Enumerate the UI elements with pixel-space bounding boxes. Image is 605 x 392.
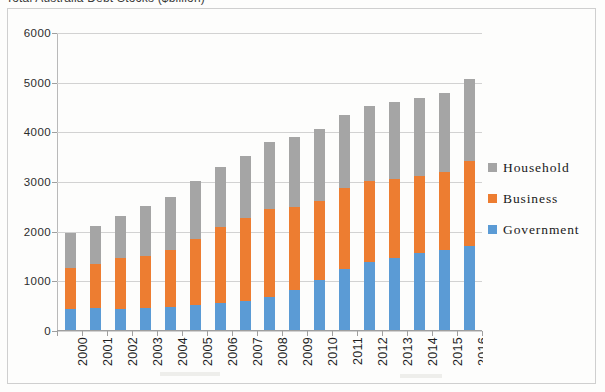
stacked-bar[interactable] (389, 102, 400, 330)
x-axis-tick (157, 331, 158, 336)
stacked-bar[interactable] (414, 98, 425, 330)
bar-slot (58, 33, 83, 330)
x-axis-tick (432, 331, 433, 336)
bar-segment-household (439, 93, 450, 172)
legend-item-business[interactable]: Business (488, 183, 596, 214)
bar-segment-household (215, 167, 226, 227)
bar-segment-business (190, 239, 201, 305)
bar-segment-business (165, 250, 176, 307)
x-axis-tick-label: 2009 (301, 337, 315, 348)
bar-slot (307, 33, 332, 330)
bar-segment-government (364, 262, 375, 330)
bar-segment-household (240, 156, 251, 218)
x-axis-tick (207, 331, 208, 336)
bar-segment-business (464, 161, 475, 245)
x-axis-tick-label: 2004 (176, 337, 190, 348)
legend-swatch-icon (488, 194, 497, 203)
bar-segment-government (314, 280, 325, 330)
bar-segment-household (339, 115, 350, 189)
x-axis-tick (57, 331, 58, 336)
stacked-bar[interactable] (464, 79, 475, 330)
x-axis-tick (332, 331, 333, 336)
bar-segment-household (90, 226, 101, 264)
stacked-bar[interactable] (439, 93, 450, 330)
bar-series-container (58, 33, 482, 330)
y-axis-tick-label: 5000 (24, 77, 51, 89)
bar-segment-government (339, 269, 350, 330)
stacked-bar[interactable] (364, 106, 375, 330)
stacked-bar[interactable] (65, 233, 76, 330)
x-axis-tick-label: 2010 (326, 337, 340, 348)
bar-segment-business (264, 209, 275, 297)
y-axis-tick (52, 83, 57, 84)
chart-page: Total Australia Debt Stocks ($billion) 0… (0, 0, 605, 392)
y-axis-tick-label: 1000 (24, 275, 51, 287)
bar-slot (258, 33, 283, 330)
x-axis-tick (282, 331, 283, 336)
stacked-bar[interactable] (90, 226, 101, 330)
bar-segment-business (289, 207, 300, 290)
bar-segment-household (115, 216, 126, 258)
x-axis-tick-label: 2014 (426, 337, 440, 348)
plot-area (57, 33, 482, 331)
x-axis-tick (457, 331, 458, 336)
x-axis-tick (82, 331, 83, 336)
x-axis-tick (357, 331, 358, 336)
x-axis-tick-label: 2002 (126, 337, 140, 348)
x-axis-tick-label: 2005 (201, 337, 215, 348)
stacked-bar[interactable] (115, 216, 126, 330)
legend-item-household[interactable]: Household (488, 152, 596, 183)
y-axis-tick-label: 0 (44, 325, 51, 337)
y-axis-tick-label: 4000 (24, 126, 51, 138)
x-axis-tick-label: 2016 (476, 337, 484, 348)
stacked-bar[interactable] (339, 115, 350, 330)
bar-segment-household (165, 197, 176, 249)
bar-slot (233, 33, 258, 330)
bar-slot (183, 33, 208, 330)
bar-segment-business (314, 201, 325, 279)
stacked-bar[interactable] (190, 181, 201, 330)
bar-segment-household (264, 142, 275, 209)
legend-item-label: Household (503, 160, 570, 176)
bar-slot (382, 33, 407, 330)
y-axis-tick (52, 132, 57, 133)
bar-segment-government (264, 297, 275, 330)
bar-slot (282, 33, 307, 330)
stacked-bar[interactable] (289, 137, 300, 330)
bar-segment-household (314, 129, 325, 202)
bar-slot (158, 33, 183, 330)
bar-segment-household (364, 106, 375, 181)
bar-slot (407, 33, 432, 330)
bar-segment-government (414, 253, 425, 330)
y-axis-tick-label: 2000 (24, 226, 51, 238)
bar-segment-business (140, 256, 151, 309)
x-axis-tick (307, 331, 308, 336)
bar-segment-government (190, 305, 201, 330)
x-axis-tick-label: 2006 (226, 337, 240, 348)
bar-segment-government (240, 301, 251, 330)
legend-item-government[interactable]: Government (488, 214, 596, 245)
y-axis-tick-label: 3000 (24, 176, 51, 188)
stacked-bar[interactable] (165, 197, 176, 330)
bar-slot (357, 33, 382, 330)
bar-segment-household (190, 181, 201, 239)
y-axis-tick (52, 182, 57, 183)
x-axis-tick (482, 331, 483, 336)
bar-segment-government (389, 258, 400, 330)
bar-segment-business (90, 264, 101, 308)
x-axis-tick-label: 2012 (376, 337, 390, 348)
bar-segment-household (389, 102, 400, 178)
x-axis-tick (257, 331, 258, 336)
stacked-bar[interactable] (240, 156, 251, 330)
x-axis-tick-label: 2007 (251, 337, 265, 348)
stacked-bar[interactable] (264, 142, 275, 330)
y-axis-tick-label: 6000 (24, 27, 51, 39)
stacked-bar[interactable] (314, 129, 325, 330)
x-axis-tick-label: 2011 (351, 337, 365, 347)
x-axis-tick-label: 2003 (151, 337, 165, 348)
x-axis-tick-label: 2000 (76, 337, 90, 348)
stacked-bar[interactable] (215, 167, 226, 330)
x-axis-tick-label: 2015 (451, 337, 465, 348)
stacked-bar[interactable] (140, 206, 151, 330)
bar-slot (83, 33, 108, 330)
